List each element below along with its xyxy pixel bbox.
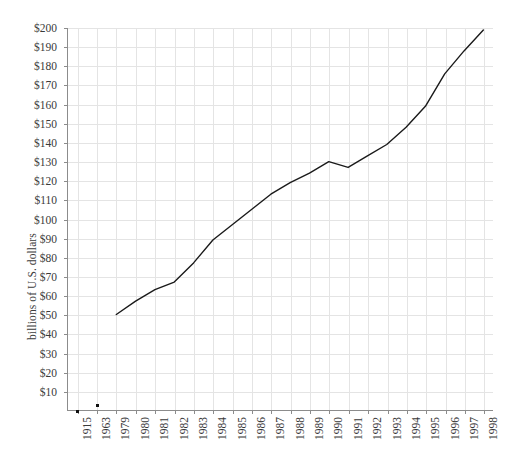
x-axis-tick-label: 1996 [449,417,461,440]
x-axis-tick-label: 1989 [313,417,325,440]
y-axis-tick-label: $120 [1,175,57,187]
y-axis-tick-label: $40 [1,328,57,340]
line-chart: billions of U.S. dollars $200$190$180$17… [0,0,505,455]
x-axis-tick-label: 1998 [487,417,499,440]
x-axis-tick-label: 1991 [352,417,364,440]
y-axis-tick-label: $70 [1,271,57,283]
x-axis-tick-label: 1990 [332,417,344,440]
y-axis-tick-label: $60 [1,290,57,302]
y-axis-tick-label: $110 [1,194,57,206]
y-axis-tick-label: $160 [1,99,57,111]
x-axis-tick-label: 1963 [100,417,112,440]
y-axis-tick-label: $150 [1,118,57,130]
data-series-line [68,28,493,410]
y-axis-tick-label: $10 [1,386,57,398]
series-polyline [116,30,483,315]
y-axis-tick-label: $200 [1,22,57,34]
y-axis-tick-label: $140 [1,137,57,149]
y-axis-tick-label: $20 [1,367,57,379]
x-axis-tick-label: 1984 [216,417,228,440]
y-axis-tick-label: $170 [1,79,57,91]
x-axis-tick-label: 1995 [429,417,441,440]
x-axis-tick-label: 1985 [236,417,248,440]
y-axis-tick-label: $90 [1,233,57,245]
y-axis-tick-label: $80 [1,252,57,264]
x-axis-tick-label: 1988 [294,417,306,440]
y-axis-tick-label: $190 [1,41,57,53]
x-axis-tick-labels: 1915196319791980198119821983198419851986… [67,411,493,455]
x-axis-tick-label: 1993 [391,417,403,440]
y-axis-tick-label: $100 [1,214,57,226]
y-axis-tick-label: $30 [1,348,57,360]
x-axis-tick-label: 1986 [255,417,267,440]
y-axis-tick-label: $130 [1,156,57,168]
y-axis-tick-label: $180 [1,60,57,72]
x-axis-tick-label: 1994 [410,417,422,440]
x-axis-tick-label: 1983 [197,417,209,440]
x-axis-tick-label: 1979 [119,417,131,440]
x-axis-tick-label: 1981 [158,417,170,440]
x-axis-tick-label: 1915 [81,417,93,440]
data-point-marker [96,404,99,407]
x-axis-tick-label: 1987 [274,417,286,440]
x-axis-tick-label: 1982 [178,417,190,440]
x-axis-tick-label: 1992 [371,417,383,440]
x-axis-tick-label: 1997 [468,417,480,440]
x-axis-tick-label: 1980 [139,417,151,440]
y-axis-tick-label: $50 [1,309,57,321]
plot-area [67,28,493,411]
y-axis-tick-labels: $200$190$180$170$160$150$140$130$120$110… [0,0,64,455]
